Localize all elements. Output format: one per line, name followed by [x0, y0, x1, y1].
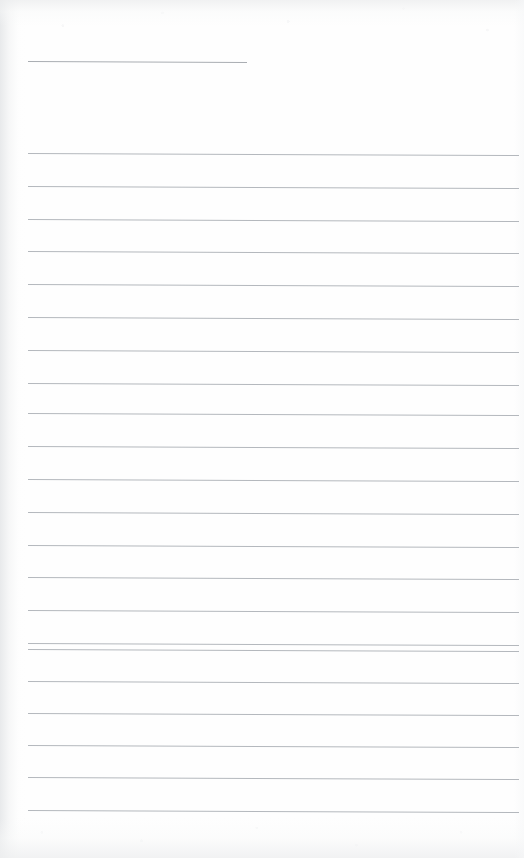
scanned-page [0, 0, 524, 858]
paper-surface [0, 0, 524, 858]
